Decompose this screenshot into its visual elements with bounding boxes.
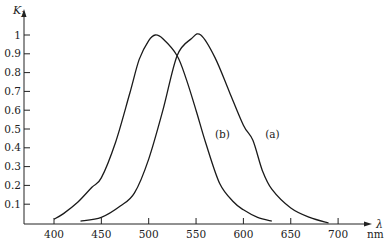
x-tick-label: 450 bbox=[91, 228, 111, 240]
y-tick-label: 0.4 bbox=[4, 141, 21, 153]
y-tick-label: 1 bbox=[14, 29, 21, 41]
curve-a bbox=[81, 34, 329, 223]
x-axis-arrow-icon bbox=[364, 222, 372, 227]
curve-b bbox=[54, 35, 272, 221]
curve-label-b: (b) bbox=[215, 128, 230, 140]
y-tick-label: 0.5 bbox=[4, 123, 21, 135]
y-tick-label: 0.9 bbox=[4, 47, 21, 59]
labels: Kλλnm(b)(a) bbox=[12, 4, 384, 240]
x-tick-label: 600 bbox=[233, 228, 253, 240]
x-tick-label: 500 bbox=[139, 228, 159, 240]
y-tick-label: 0.8 bbox=[4, 66, 21, 78]
y-tick-label: 0.6 bbox=[4, 104, 21, 116]
x-tick-label: 650 bbox=[281, 228, 301, 240]
curves bbox=[54, 34, 329, 223]
x-tick-label: 700 bbox=[328, 228, 348, 240]
axes bbox=[22, 9, 373, 227]
y-axis-label-subscript: λ bbox=[20, 10, 26, 19]
y-tick-label: 0.7 bbox=[4, 85, 21, 97]
y-tick-label: 0.1 bbox=[4, 198, 21, 210]
x-axis-unit: nm bbox=[367, 228, 384, 240]
x-tick-label: 550 bbox=[186, 228, 206, 240]
spectral-efficiency-chart: 0.10.20.30.40.50.60.70.80.91400450500550… bbox=[0, 0, 388, 240]
y-tick-label: 0.3 bbox=[4, 160, 21, 172]
x-tick-label: 400 bbox=[44, 228, 64, 240]
curve-label-a: (a) bbox=[265, 128, 279, 140]
y-tick-label: 0.2 bbox=[4, 179, 21, 191]
y-axis-label: Kλ bbox=[12, 4, 26, 19]
